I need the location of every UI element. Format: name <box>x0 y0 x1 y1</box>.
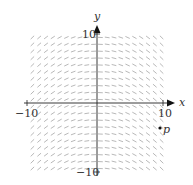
slope-segment <box>71 57 76 59</box>
slope-segment <box>146 64 150 67</box>
slope-segment <box>112 78 117 79</box>
slope-segment <box>146 140 150 143</box>
slope-segment <box>71 113 76 115</box>
slope-segment <box>132 119 136 121</box>
slope-segment <box>31 167 34 170</box>
slope-segment <box>119 99 124 101</box>
slope-segment <box>71 140 76 142</box>
slope-segment <box>160 77 163 80</box>
slope-segment <box>64 147 68 149</box>
slope-segment <box>71 133 76 135</box>
slope-segment <box>132 160 136 162</box>
slope-segment <box>112 37 117 38</box>
slope-segment <box>139 140 143 143</box>
slope-field-plot <box>0 0 193 185</box>
slope-segment <box>153 139 157 142</box>
slope-segment <box>64 85 68 87</box>
slope-segment <box>58 57 62 59</box>
slope-segment <box>153 160 157 163</box>
slope-segment <box>125 126 129 128</box>
slope-segment <box>146 50 150 53</box>
slope-segment <box>31 139 34 142</box>
slope-segment <box>58 43 62 45</box>
slope-segment <box>112 120 117 121</box>
slope-segment <box>153 112 157 115</box>
slope-segment <box>153 132 157 135</box>
slope-segment <box>119 161 124 163</box>
slope-segment <box>78 140 83 141</box>
slope-segment <box>146 77 150 80</box>
slope-segment <box>71 99 76 101</box>
slope-segment <box>132 91 136 93</box>
slope-segment <box>146 133 150 136</box>
slope-segment <box>146 98 150 101</box>
slope-segment <box>132 140 136 142</box>
slope-segment <box>139 57 143 60</box>
slope-segment <box>64 99 68 101</box>
slope-segment <box>146 153 150 156</box>
y-axis-label: y <box>94 11 100 22</box>
slope-segment <box>160 50 163 53</box>
slope-segment <box>125 112 129 114</box>
slope-segment <box>31 84 34 87</box>
slope-segment <box>132 154 136 156</box>
slope-segment <box>125 78 129 80</box>
slope-segment <box>112 92 117 93</box>
slope-segment <box>132 50 136 52</box>
slope-segment <box>58 78 62 80</box>
slope-segment <box>119 147 124 149</box>
slope-segment <box>125 147 129 149</box>
slope-segment <box>71 71 76 73</box>
x-axis-label: x <box>179 97 185 108</box>
slope-segment <box>84 113 89 114</box>
slope-segment <box>132 43 136 45</box>
slope-segment <box>71 161 76 163</box>
slope-segment <box>78 64 83 65</box>
slope-segment <box>125 140 129 142</box>
slope-segment <box>139 78 143 81</box>
slope-segment <box>58 36 62 38</box>
slope-segment <box>139 43 143 46</box>
slope-segment <box>146 57 150 60</box>
slope-segment <box>153 98 157 101</box>
slope-segment <box>84 78 89 79</box>
slope-segment <box>44 133 48 136</box>
slope-segment <box>31 63 34 66</box>
slope-segment <box>44 50 48 53</box>
slope-segment <box>105 99 110 100</box>
slope-segment <box>119 133 124 135</box>
slope-segment <box>84 120 89 121</box>
slope-segment <box>37 160 41 163</box>
slope-segment <box>51 153 55 156</box>
slope-segment <box>51 140 55 143</box>
slope-segment <box>146 112 150 115</box>
slope-segment <box>44 91 48 94</box>
slope-segment <box>153 146 157 149</box>
slope-segment <box>58 105 62 107</box>
slope-segment <box>160 139 163 142</box>
slope-segment <box>105 92 110 93</box>
slope-segment <box>44 167 48 170</box>
slope-segment <box>58 119 62 121</box>
y-min-label: −10 <box>76 167 99 178</box>
slope-segment <box>58 126 62 128</box>
slope-segment <box>112 71 117 72</box>
slope-segment <box>125 154 129 156</box>
slope-segment <box>112 147 117 148</box>
slope-segment <box>119 44 124 46</box>
slope-segment <box>44 64 48 67</box>
slope-segment <box>44 146 48 149</box>
slope-segment <box>58 71 62 73</box>
slope-segment <box>84 161 89 162</box>
slope-segment <box>44 77 48 80</box>
slope-segment <box>64 50 68 52</box>
slope-segment <box>160 63 163 66</box>
slope-segment <box>44 71 48 74</box>
slope-segment <box>153 70 157 73</box>
slope-segment <box>51 160 55 163</box>
slope-segment <box>125 99 129 101</box>
slope-segment <box>58 160 62 162</box>
slope-segment <box>58 98 62 100</box>
slope-segment <box>105 65 110 66</box>
slope-segment <box>31 91 34 94</box>
